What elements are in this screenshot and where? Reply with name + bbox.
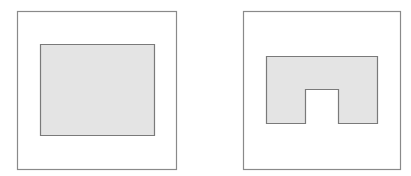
- right-notched-shape: [267, 57, 378, 124]
- right-panel: [244, 12, 401, 170]
- left-filled-rectangle: [41, 45, 155, 136]
- left-panel: [18, 12, 177, 170]
- diagram-canvas: [0, 0, 411, 176]
